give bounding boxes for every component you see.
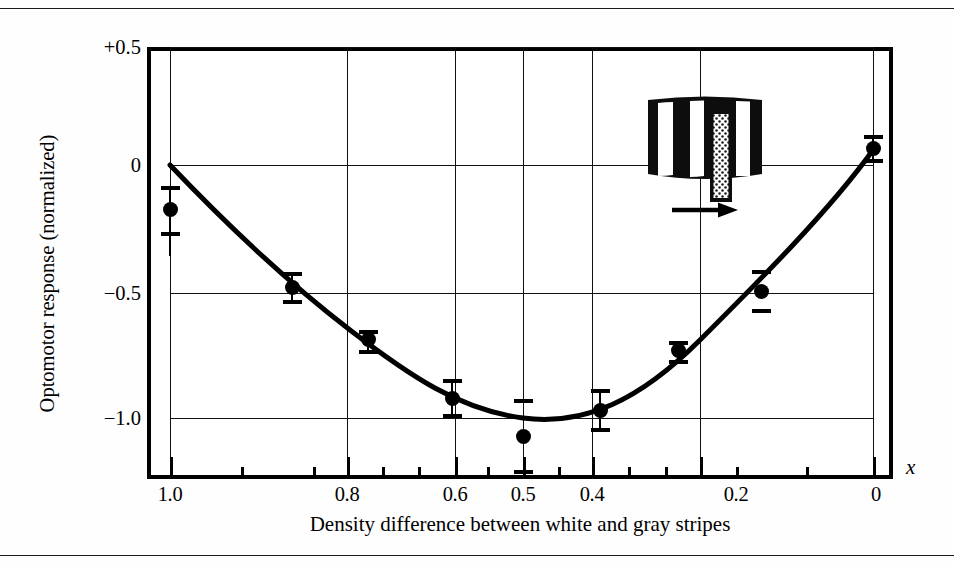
- x-tick-minor: [382, 467, 385, 477]
- x-tick-major-0-2: [700, 457, 703, 477]
- data-point: [445, 391, 460, 406]
- y-tick-label-plus-0-5: +0.5: [104, 37, 141, 58]
- error-bar-cap-lower: [283, 300, 302, 304]
- error-bar-cap-lower: [669, 360, 688, 364]
- x-tick-minor: [418, 467, 421, 477]
- x-axis-ticks: [147, 455, 893, 477]
- x-tick-major-1-0: [170, 457, 173, 477]
- motion-direction-arrow-icon: [670, 200, 740, 220]
- error-bar-cap-lower: [443, 414, 462, 418]
- x-tick-label-0-6: 0.6: [425, 484, 485, 505]
- inset-drum-stimulus-diagram: [640, 96, 770, 208]
- y-axis-tick-labels: +0.5 0 −0.5 −1.0: [0, 0, 141, 568]
- drum-illustration-icon: [640, 96, 770, 208]
- figure-container: +0.5 0 −0.5 −1.0 Optomotor response (nor…: [0, 0, 954, 568]
- error-bar-cap-upper: [752, 270, 771, 274]
- x-tick-minor: [736, 467, 739, 477]
- x-tick-label-0: 0: [846, 484, 906, 505]
- page-rule-top: [0, 8, 954, 9]
- data-point: [285, 280, 300, 295]
- x-tick-label-1-0: 1.0: [140, 484, 200, 505]
- y-axis-title: Optomotor response (normalized): [36, 109, 59, 439]
- error-bar-cap-upper: [283, 272, 302, 276]
- x-tick-minor: [487, 467, 490, 477]
- x-tick-minor: [313, 467, 316, 477]
- x-tick-major-0-8: [347, 457, 350, 477]
- data-point: [866, 141, 881, 156]
- x-tick-minor: [628, 467, 631, 477]
- data-point: [754, 284, 769, 299]
- x-variable-symbol: x: [906, 455, 915, 480]
- data-point: [361, 332, 376, 347]
- x-tick-major-0-5: [523, 457, 526, 477]
- x-tick-major-0-4: [592, 457, 595, 477]
- x-tick-major-0: [873, 457, 876, 477]
- data-point: [516, 429, 531, 444]
- error-bar-cap-upper: [864, 135, 883, 139]
- error-bar-cap-upper: [591, 389, 610, 393]
- error-bar-cap-upper: [443, 379, 462, 383]
- x-tick-minor: [665, 467, 668, 477]
- y-tick-label-minus-1-0: −1.0: [104, 408, 141, 429]
- gridline-x-0: [873, 47, 874, 479]
- data-point: [163, 202, 178, 217]
- error-bar-line: [169, 186, 171, 256]
- page-rule-bottom: [0, 555, 954, 556]
- error-bar-cap-upper: [514, 399, 533, 403]
- x-axis-title: Density difference between white and gra…: [147, 512, 893, 537]
- x-tick-label-0-5: 0.5: [493, 484, 553, 505]
- x-tick-minor: [558, 467, 561, 477]
- data-point: [593, 403, 608, 418]
- x-tick-minor: [806, 467, 809, 477]
- error-bar-cap-lower: [359, 350, 378, 354]
- x-tick-minor: [241, 467, 244, 477]
- x-tick-label-0-4: 0.4: [562, 484, 622, 505]
- y-tick-label-0: 0: [131, 155, 141, 176]
- error-bar-cap-lower: [752, 309, 771, 313]
- y-tick-label-minus-0-5: −0.5: [104, 283, 141, 304]
- x-tick-major-0-6: [455, 457, 458, 477]
- error-bar-cap-lower: [591, 428, 610, 432]
- error-bar-cap-lower: [864, 159, 883, 163]
- x-tick-label-0-2: 0.2: [706, 484, 766, 505]
- data-point: [671, 343, 686, 358]
- error-bar-cap-lower: [161, 232, 180, 236]
- error-bar-cap-upper: [161, 186, 180, 190]
- x-tick-label-0-8: 0.8: [317, 484, 377, 505]
